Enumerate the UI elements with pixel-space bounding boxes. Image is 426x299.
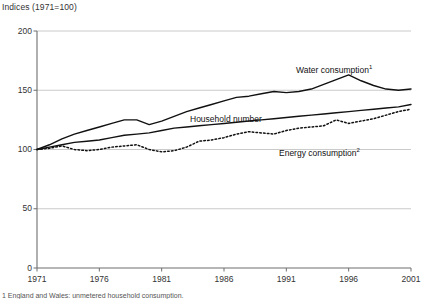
series-label-footnote-marker: 1 bbox=[369, 64, 372, 70]
series-label-water-consumption: Water consumption1 bbox=[296, 64, 372, 75]
series-label-footnote-marker: 2 bbox=[357, 147, 360, 153]
x-tick-label-1971: 1971 bbox=[17, 274, 57, 284]
chart-container: Indices (1971=100) 050100150200 19711976… bbox=[0, 0, 426, 299]
chart-footnote: 1 England and Wales: unmetered household… bbox=[2, 292, 422, 299]
series-label-household-number: Household number bbox=[190, 114, 262, 124]
y-tick-label-200: 200 bbox=[4, 26, 32, 36]
y-tick-label-0: 0 bbox=[4, 263, 32, 273]
series-label-text: Energy consumption bbox=[279, 148, 357, 158]
y-tick-label-150: 150 bbox=[4, 85, 32, 95]
series-label-energy-consumption: Energy consumption2 bbox=[279, 147, 360, 158]
series-label-text: Household number bbox=[190, 114, 262, 124]
y-tick-label-100: 100 bbox=[4, 144, 32, 154]
x-tick-label-2001: 2001 bbox=[391, 274, 426, 284]
x-tick-label-1991: 1991 bbox=[266, 274, 306, 284]
series-line-household-number bbox=[37, 104, 411, 149]
x-tick-label-1976: 1976 bbox=[79, 274, 119, 284]
x-tick-label-1996: 1996 bbox=[329, 274, 369, 284]
x-tick-label-1986: 1986 bbox=[204, 274, 244, 284]
chart-plot-area bbox=[0, 0, 426, 299]
x-tick-label-1981: 1981 bbox=[142, 274, 182, 284]
series-label-text: Water consumption bbox=[296, 65, 369, 75]
y-tick-label-50: 50 bbox=[4, 203, 32, 213]
